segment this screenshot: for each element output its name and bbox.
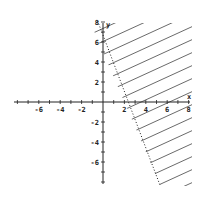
y-tick-labels: 8642-2-4-6 <box>91 19 99 167</box>
hatch-region <box>80 0 198 197</box>
y-tick-label: 6 <box>95 39 99 47</box>
x-tick-label: -4 <box>56 106 64 114</box>
x-tick-label: 6 <box>165 106 169 114</box>
x-tick-label: 4 <box>144 106 148 114</box>
x-axis-label: x <box>187 93 192 101</box>
inequality-graph: x y -6-4-22468 8642-2-4-6 <box>0 0 198 197</box>
y-tick-label: -4 <box>91 139 99 147</box>
x-tick-label: -2 <box>77 106 85 114</box>
y-tick-label: 2 <box>95 79 99 87</box>
y-tick-label: -2 <box>91 119 99 127</box>
y-tick-label: 4 <box>95 59 99 67</box>
y-axis <box>101 22 105 184</box>
x-tick-labels: -6-4-22468 <box>35 106 191 114</box>
x-tick-label: 8 <box>186 106 190 114</box>
x-tick-label: 2 <box>122 106 126 114</box>
x-axis <box>14 100 190 104</box>
x-tick-label: -6 <box>35 106 43 114</box>
y-tick-label: 8 <box>95 19 99 27</box>
y-tick-label: -6 <box>91 159 99 167</box>
